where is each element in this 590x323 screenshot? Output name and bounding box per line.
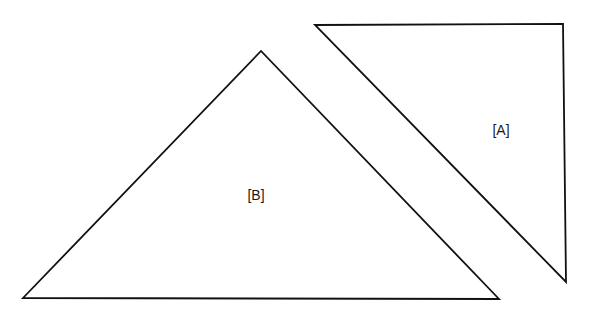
triangle-b: [B] <box>23 51 499 299</box>
triangle-a-label: [A] <box>492 122 509 138</box>
triangle-b-outline <box>23 51 499 299</box>
triangle-a-outline <box>315 24 566 282</box>
triangle-a: [A] <box>315 24 566 282</box>
diagram-canvas: [B] [A] <box>0 0 590 323</box>
triangle-b-label: [B] <box>247 187 264 203</box>
